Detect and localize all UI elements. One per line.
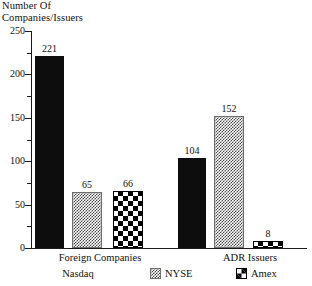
bar-amex-foreign-companies (113, 191, 143, 248)
y-tick-major (25, 248, 32, 249)
legend-label-nasdaq: Nasdaq (62, 268, 94, 279)
bar-value-label: 104 (178, 145, 206, 156)
gray-dither-swatch-icon (150, 268, 161, 279)
y-tick-label: 50 (15, 199, 25, 210)
y-axis-title: Number Of Companies/Issuers (2, 0, 83, 23)
plot-area: 22165661041528 (31, 31, 306, 248)
y-tick-label: 100 (10, 155, 25, 166)
x-axis-line (31, 248, 307, 249)
y-tick-label: 250 (10, 25, 25, 36)
legend-label-amex: Amex (251, 268, 277, 279)
checkerboard-swatch-icon (236, 268, 247, 279)
legend-label-nyse: NYSE (165, 268, 192, 279)
legend-item-nyse: NYSE (150, 268, 192, 279)
bar-value-label: 221 (35, 43, 64, 54)
bar-value-label: 66 (113, 178, 143, 189)
group-label-adr-issuers: ADR Issuers (160, 252, 312, 263)
bar-nasdaq-foreign-companies (35, 56, 64, 248)
bar-value-label: 65 (72, 179, 102, 190)
bar-nyse-foreign-companies (72, 192, 102, 248)
y-tick-label: 200 (10, 68, 25, 79)
bar-value-label: 8 (253, 228, 283, 239)
y-tick-label: 150 (10, 112, 25, 123)
legend: Nasdaq NYSE Amex (0, 268, 312, 286)
bar-value-label: 152 (214, 103, 244, 114)
bar-nasdaq-adr-issuers (178, 158, 206, 248)
bar-chart: Number Of Companies/Issuers 050100150200… (0, 0, 312, 286)
bar-amex-adr-issuers (253, 241, 283, 248)
bar-nyse-adr-issuers (214, 116, 244, 248)
legend-item-nasdaq: Nasdaq (0, 268, 156, 279)
legend-item-amex: Amex (236, 268, 277, 279)
